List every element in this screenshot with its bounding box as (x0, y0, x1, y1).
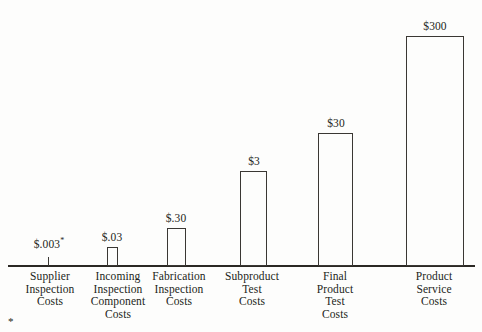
bar-value-label: $.03 (85, 231, 139, 243)
bar-value-label: $.30 (149, 212, 203, 224)
footnote-marker: * (8, 316, 14, 327)
category-axis-labels: Supplier Inspection CostsIncoming Inspec… (0, 268, 482, 324)
bar (107, 247, 118, 266)
category-label: Supplier Inspection Costs (12, 270, 88, 308)
bar-value-label: $300 (408, 20, 462, 32)
bar (318, 133, 353, 266)
bar-value-label: $30 (309, 117, 363, 129)
category-label: Product Service Costs (396, 270, 472, 308)
bar (167, 228, 186, 266)
bar (406, 36, 464, 266)
bar-value-label: $3 (227, 155, 281, 167)
plot-area: $.003*$.03$.30$3$30$300 (0, 0, 482, 268)
bar (240, 171, 267, 266)
bar (48, 257, 49, 266)
cost-of-quality-bar-chart: $.003*$.03$.30$3$30$300 Supplier Inspect… (0, 0, 482, 332)
category-label: Subproduct Test Costs (214, 270, 290, 308)
footnote-superscript: * (60, 236, 64, 245)
bar-value-label: $.003* (22, 238, 76, 250)
category-label: Fabrication Inspection Costs (141, 270, 217, 308)
category-label: Final Product Test Costs (297, 270, 373, 320)
